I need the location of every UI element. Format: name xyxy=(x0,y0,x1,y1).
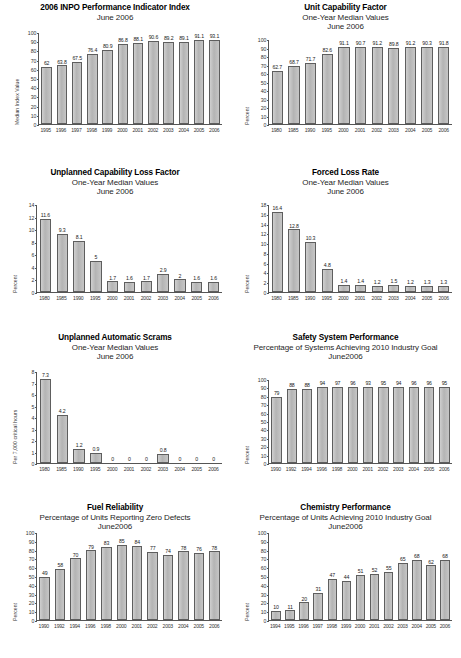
bar-column: 74 xyxy=(160,533,175,620)
x-tick-label: 1985 xyxy=(285,127,302,133)
chart-panel: Fuel ReliabilityPercentage of Units Repo… xyxy=(0,500,230,658)
bar-column: 1.7 xyxy=(104,205,121,292)
x-tick-label: 2006 xyxy=(435,295,452,301)
bar-value-label: 91.1 xyxy=(339,40,349,46)
x-tick-label: 2000 xyxy=(114,623,130,629)
x-tick-label: 2005 xyxy=(191,127,206,133)
x-tick-label: 2004 xyxy=(171,466,188,472)
bar xyxy=(147,552,157,620)
bar xyxy=(322,269,333,292)
bar-value-label: 63.8 xyxy=(57,59,67,65)
bar xyxy=(132,546,142,620)
x-tick-label: 1995 xyxy=(87,295,104,301)
x-tick-label: 2003 xyxy=(385,295,402,301)
x-tick-label: 1990 xyxy=(301,295,318,301)
chart-title-block: Unit Capability FactorOne-Year Median Va… xyxy=(230,0,461,32)
bar-value-label: 0 xyxy=(179,456,182,462)
bar xyxy=(305,63,316,124)
bar-value-label: 4.8 xyxy=(324,262,331,268)
bar-series: 10112031474451525565686268 xyxy=(269,533,452,620)
bar-column: 93.1 xyxy=(207,33,222,124)
x-tick-label: 1992 xyxy=(283,466,298,472)
chart-title: Unplanned Capability Loss Factor xyxy=(0,168,230,178)
bar-value-label: 10.3 xyxy=(306,235,316,241)
bar xyxy=(355,285,366,292)
bar xyxy=(271,611,281,620)
bar-value-label: 96 xyxy=(411,380,416,386)
chart-date: June 2006 xyxy=(0,187,230,196)
bar xyxy=(209,551,219,620)
bar-value-label: 51 xyxy=(358,568,363,574)
chart-title: 2006 INPO Performance Indicator Index xyxy=(0,3,230,13)
bar-value-label: 95 xyxy=(442,380,447,386)
x-tick-label: 1990 xyxy=(301,127,318,133)
x-tick-label: 2001 xyxy=(130,127,145,133)
y-tick-mark xyxy=(267,293,269,294)
x-tick-label: 2005 xyxy=(424,623,438,629)
bar-value-label: 97 xyxy=(335,380,340,386)
x-tick-label: 2001 xyxy=(121,466,138,472)
plot-area: 01020304050607080901006263.867.576.480.9… xyxy=(38,33,222,125)
bar-column: 16.4 xyxy=(269,205,286,292)
bar-column: 12.8 xyxy=(286,205,303,292)
x-tick-label: 2000 xyxy=(335,127,352,133)
x-axis: 1980198519901995200020012002200320042005… xyxy=(268,295,452,301)
x-tick-label: 2001 xyxy=(352,127,369,133)
bar xyxy=(363,387,373,463)
bar-value-label: 91.8 xyxy=(439,40,449,46)
bar-value-label: 85 xyxy=(119,538,124,544)
bar-column: 31 xyxy=(311,533,325,620)
plot-area: 0246810121411.69.38.151.71.61.72.921.61.… xyxy=(36,205,222,293)
bar-column: 20 xyxy=(297,533,311,620)
bar-column: 0 xyxy=(188,372,205,463)
bar-value-label: 58 xyxy=(57,562,62,568)
x-tick-label: 2000 xyxy=(353,623,367,629)
x-tick-label: 1992 xyxy=(52,623,68,629)
bar xyxy=(141,281,152,292)
y-tick-mark xyxy=(267,621,269,622)
x-tick-label: 2006 xyxy=(205,295,222,301)
bar-value-label: 0 xyxy=(111,456,114,462)
x-tick-label: 2002 xyxy=(381,623,395,629)
bar-column: 88 xyxy=(300,380,315,463)
bar-column: 70 xyxy=(68,533,83,620)
bar-column: 8.1 xyxy=(71,205,88,292)
bar xyxy=(178,551,188,620)
bar xyxy=(102,50,112,124)
bar-column: 1.7 xyxy=(138,205,155,292)
bar xyxy=(86,550,96,620)
x-tick-label: 2001 xyxy=(367,623,381,629)
bar-column: 67.5 xyxy=(70,33,85,124)
chart-title-block: Unplanned Automatic ScramsOne-Year Media… xyxy=(0,330,230,362)
bar-value-label: 11.6 xyxy=(41,212,50,218)
bar-column: 85 xyxy=(114,533,129,620)
chart-subtitle: One-Year Median Values xyxy=(0,343,230,352)
bar xyxy=(55,569,65,620)
x-tick-label: 2000 xyxy=(104,466,121,472)
bar-column: 1.3 xyxy=(435,205,452,292)
bar-column: 62.7 xyxy=(269,40,286,124)
x-tick-label: 2006 xyxy=(437,466,452,472)
bar-value-label: 90.7 xyxy=(356,40,366,46)
bar xyxy=(272,212,283,292)
bar xyxy=(107,281,118,292)
x-tick-label: 2003 xyxy=(395,623,409,629)
x-tick-label: 2001 xyxy=(360,466,375,472)
chart-title: Forced Loss Rate xyxy=(230,168,461,178)
bar-value-label: 1.3 xyxy=(440,279,447,285)
bar-column: 91.1 xyxy=(192,33,207,124)
x-tick-label: 1995 xyxy=(38,127,53,133)
bar-column: 90.7 xyxy=(352,40,369,124)
bar-value-label: 1.2 xyxy=(76,442,83,448)
bar-column: 47 xyxy=(325,533,339,620)
chart-panel: Unit Capability FactorOne-Year Median Va… xyxy=(230,0,461,165)
bar-column: 1.6 xyxy=(121,205,138,292)
bar-value-label: 94 xyxy=(396,380,401,386)
bar xyxy=(57,65,67,124)
bar xyxy=(287,389,297,463)
bar-value-label: 88 xyxy=(304,382,309,388)
bar-value-label: 1.2 xyxy=(374,279,381,285)
bar-value-label: 84 xyxy=(135,539,140,545)
bar-value-label: 1.3 xyxy=(424,279,431,285)
bar-column: 95 xyxy=(437,380,452,463)
